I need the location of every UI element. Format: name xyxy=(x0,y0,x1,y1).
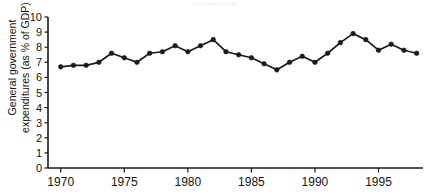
y-tick-label: 6 xyxy=(36,71,42,83)
y-tick-label: 0 xyxy=(36,162,42,174)
data-point-marker xyxy=(109,51,114,56)
x-tick-label: 1985 xyxy=(238,175,265,189)
x-axis: 197019751980198519901995 xyxy=(47,168,423,189)
y-tick-label: 4 xyxy=(36,102,42,114)
series-line xyxy=(61,34,417,70)
y-tick-label: 8 xyxy=(36,41,42,53)
data-point-marker xyxy=(338,40,343,45)
data-point-marker xyxy=(364,37,369,42)
data-point-marker xyxy=(262,62,267,67)
data-point-marker xyxy=(186,49,191,54)
data-point-marker xyxy=(325,51,330,56)
y-tick-label: 2 xyxy=(36,132,42,144)
y-tick-label: 10 xyxy=(30,11,42,23)
x-tick-label: 1980 xyxy=(174,175,201,189)
data-point-marker xyxy=(71,63,76,68)
data-point-marker xyxy=(402,48,407,53)
x-tick-label: 1975 xyxy=(111,175,138,189)
data-point-marker xyxy=(414,51,419,56)
data-point-markers xyxy=(58,31,419,72)
data-point-marker xyxy=(275,68,280,73)
data-point-marker xyxy=(376,48,381,53)
data-point-marker xyxy=(97,60,102,65)
y-tick-label: 7 xyxy=(36,56,42,68)
data-point-marker xyxy=(84,63,89,68)
data-point-marker xyxy=(135,60,140,65)
y-tick-label: 5 xyxy=(36,87,42,99)
chart-figure: International General government expendi… xyxy=(0,0,429,194)
y-tick-label: 3 xyxy=(36,117,42,129)
data-series-line xyxy=(61,34,417,70)
data-point-marker xyxy=(198,43,203,48)
y-tick-label: 9 xyxy=(36,26,42,38)
data-point-marker xyxy=(58,65,63,70)
y-tick-label: 1 xyxy=(36,147,42,159)
line-chart-plot: 012345678910 197019751980198519901995 xyxy=(0,0,429,194)
data-point-marker xyxy=(211,37,216,42)
data-point-marker xyxy=(160,49,165,54)
data-point-marker xyxy=(351,31,356,36)
data-point-marker xyxy=(300,54,305,59)
y-axis: 012345678910 xyxy=(30,11,48,174)
data-point-marker xyxy=(147,51,152,56)
x-tick-label: 1970 xyxy=(47,175,74,189)
data-point-marker xyxy=(389,42,394,47)
data-point-marker xyxy=(122,55,127,60)
data-point-marker xyxy=(224,49,229,54)
data-point-marker xyxy=(236,52,241,57)
data-point-marker xyxy=(249,55,254,60)
data-point-marker xyxy=(313,60,318,65)
x-tick-label: 1990 xyxy=(302,175,329,189)
x-tick-label: 1995 xyxy=(365,175,392,189)
data-point-marker xyxy=(173,43,178,48)
data-point-marker xyxy=(287,60,292,65)
